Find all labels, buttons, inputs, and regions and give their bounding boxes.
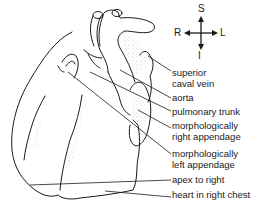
label-line: right appendage	[172, 132, 241, 143]
label-line: caval vein	[172, 79, 214, 90]
label-line: morphologically	[172, 149, 238, 160]
label-line: superior	[172, 68, 214, 79]
label-line: aorta	[172, 93, 194, 104]
label-superior-caval-vein: superior caval vein	[172, 68, 214, 89]
compass-superior: S	[198, 4, 205, 14]
label-line: apex to right	[172, 175, 224, 186]
label-line: pulmonary trunk	[172, 107, 240, 118]
leader-superior-caval-vein	[148, 56, 171, 71]
label-right-appendage: morphologically right appendage	[172, 121, 241, 142]
leader-apex-to-right	[30, 180, 171, 185]
orientation-compass	[184, 16, 218, 50]
label-line: morphologically	[172, 121, 241, 132]
compass-left: L	[220, 28, 226, 38]
label-left-appendage: morphologically left appendage	[172, 149, 238, 170]
label-pulmonary-trunk: pulmonary trunk	[172, 107, 240, 118]
label-apex-to-right: apex to right	[172, 175, 224, 186]
label-aorta: aorta	[172, 93, 194, 104]
compass-inferior: I	[198, 51, 201, 61]
leader-left-appendage	[68, 72, 171, 154]
compass-right: R	[174, 28, 181, 38]
heart-outline	[12, 32, 140, 199]
label-heart-in-right-chest: heart in right chest	[172, 190, 250, 201]
label-line: left appendage	[172, 160, 238, 171]
leader-aorta	[120, 70, 171, 98]
label-line: heart in right chest	[172, 190, 250, 201]
